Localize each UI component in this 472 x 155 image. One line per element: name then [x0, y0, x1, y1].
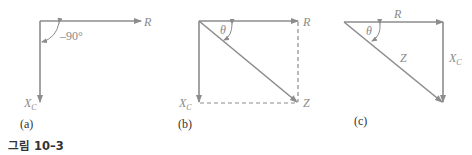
panel-label-b: (b) [178, 117, 192, 131]
r-label-b: R [302, 15, 311, 29]
xc-label-c: XC [448, 51, 462, 67]
angle-label-b: θ [220, 23, 226, 37]
panel-label-c: (c) [354, 114, 367, 128]
r-label-c: R [393, 7, 402, 21]
z-label-b: Z [303, 96, 310, 110]
panel-b: θ R XC Z (b) [178, 15, 311, 131]
r-label-a: R [143, 15, 152, 29]
panel-label-a: (a) [20, 117, 33, 131]
angle-label-c: θ [366, 24, 372, 38]
angle-arc-c [372, 24, 380, 41]
z-vector-c [344, 22, 442, 102]
angle-label-a: –90° [59, 29, 83, 43]
z-label-c: Z [400, 51, 407, 65]
xc-label-a: XC [23, 96, 37, 112]
figure-caption: 그림 10–3 [8, 139, 64, 153]
panel-a: –90° R XC (a) [20, 15, 152, 131]
panel-c: θ R Z XC (c) [344, 7, 462, 128]
impedance-phasor-diagram: –90° R XC (a) θ R XC Z (b) θ R Z XC (c) … [0, 0, 472, 155]
z-vector-b [199, 21, 297, 102]
angle-arc-a [42, 23, 59, 42]
xc-label-b: XC [178, 96, 192, 112]
